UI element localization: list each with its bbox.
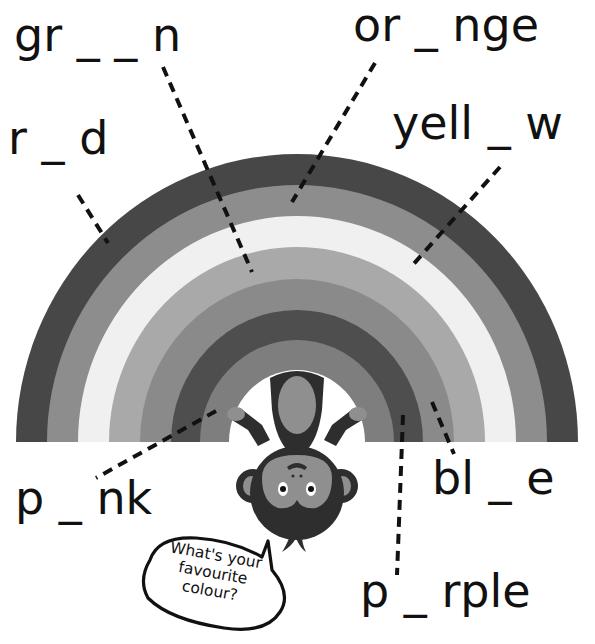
monkey-right-hand [349,407,367,421]
word-red: r _ d [8,115,108,161]
word-purple: p _ rple [360,568,531,614]
word-yellow: yell _ w [392,100,563,146]
monkey-nostril [291,474,294,477]
worksheet: gr _ _ n or _ nge r _ d yell _ w p _ nk … [0,0,595,644]
monkey-belly [278,376,316,434]
monkey-right-pupil [308,486,314,492]
monkey-nostril [299,474,302,477]
monkey-left-pupil [280,486,286,492]
monkey-left-hand [227,407,245,421]
word-blue: bl _ e [432,455,555,501]
word-green: gr _ _ n [14,12,181,58]
word-pink: p _ nk [15,475,152,521]
word-orange: or _ nge [353,2,539,48]
